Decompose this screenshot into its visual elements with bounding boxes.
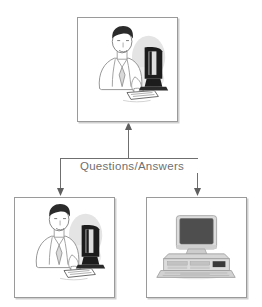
arrowhead-up-interrogator (125, 122, 132, 130)
arrowhead-down-computer (194, 188, 201, 196)
node-computer-respondent[interactable] (146, 197, 247, 298)
node-human-respondent[interactable] (14, 197, 115, 298)
desktop-computer-icon (147, 198, 246, 297)
diagram-canvas: Questions/Answers (0, 0, 262, 307)
person-at-terminal-icon (15, 198, 114, 297)
arrowhead-down-human (57, 188, 64, 196)
person-at-terminal-icon (78, 18, 177, 121)
node-interrogator[interactable] (77, 17, 178, 122)
edge-label-questions-answers: Questions/Answers (66, 159, 198, 173)
